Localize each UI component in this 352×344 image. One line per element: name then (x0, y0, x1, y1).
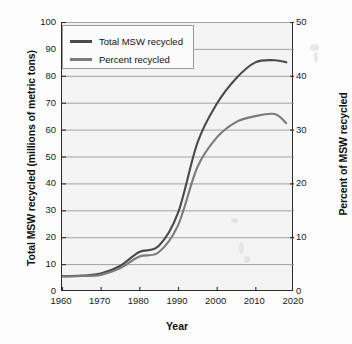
legend-item-label: Percent recycled (99, 54, 170, 65)
y-axis-left-tick-label: 40 (30, 178, 56, 188)
y-axis-left-tick-label: 60 (30, 125, 56, 135)
x-axis-tick-labels: 1960197019801990200020102020 (0, 295, 352, 311)
y-axis-right-tick-label: 50 (296, 17, 322, 27)
y-axis-left-tick-label: 90 (30, 44, 56, 54)
x-axis-tick-label: 2020 (273, 295, 313, 306)
legend-item: Percent recycled (70, 52, 170, 66)
y-axis-left-tick-label: 80 (30, 71, 56, 81)
y-axis-left-tick-label: 30 (30, 205, 56, 215)
legend-swatch-icon (70, 40, 92, 43)
y-axis-left-tick-label: 10 (30, 259, 56, 269)
y-axis-left-tick-labels: 0102030405060708090100 (8, 0, 56, 344)
x-axis-tick-label: 2000 (196, 295, 236, 306)
series-line-2 (62, 114, 286, 277)
x-axis-title: Year (61, 320, 293, 332)
y-axis-left-tick-label: 50 (30, 152, 56, 162)
x-axis-tick-label: 2010 (234, 295, 274, 306)
chart-legend: Total MSW recycledPercent recycled (62, 25, 194, 69)
y-axis-left-tick-label: 100 (30, 17, 56, 27)
y-axis-left-tick-label: 20 (30, 232, 56, 242)
legend-item: Total MSW recycled (70, 34, 183, 48)
chart-figure: Total MSW recycled (millions of metric t… (0, 0, 352, 344)
y-axis-right-tick-label: 20 (296, 178, 322, 188)
legend-swatch-icon (70, 58, 92, 61)
series-line-1 (62, 60, 286, 276)
y-axis-right-tick-labels: 01020304050 (296, 0, 326, 344)
legend-item-label: Total MSW recycled (99, 36, 183, 47)
y-axis-right-tick-label: 10 (296, 232, 322, 242)
x-axis-tick-label: 1990 (157, 295, 197, 306)
x-axis-tick-label: 1970 (80, 295, 120, 306)
x-axis-tick-label: 1960 (41, 295, 81, 306)
y-axis-right-title: Percent of MSW recycled (337, 19, 349, 289)
y-axis-right-tick-label: 30 (296, 125, 322, 135)
y-axis-right-tick-label: 40 (296, 71, 322, 81)
x-axis-tick-label: 1980 (118, 295, 158, 306)
y-axis-left-tick-label: 70 (30, 98, 56, 108)
